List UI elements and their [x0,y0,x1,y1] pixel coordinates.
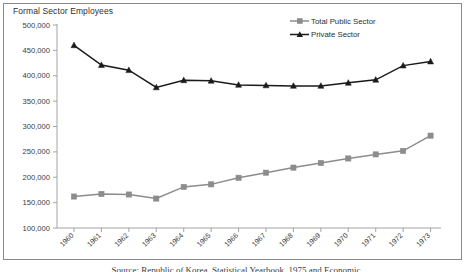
x-tick-label: 1960 [58,231,76,249]
x-tick-label: 1967 [250,231,268,249]
x-tick-label: 1973 [414,231,432,249]
legend-label: Total Public Sector [311,17,376,26]
x-tick-label: 1968 [277,231,295,249]
y-tick-label: 200,000 [23,173,50,182]
data-point-marker [401,148,406,153]
x-tick-label: 1963 [140,231,158,249]
line-chart: 100,000150,000200,000250,000300,000350,0… [0,0,472,272]
x-tick-label: 1966 [222,231,240,249]
y-axis-ticks: 100,000150,000200,000250,000300,000350,0… [23,21,57,233]
data-point-marker [346,156,351,161]
figure-caption: Source: Republic of Korea, Statistical Y… [0,265,472,272]
x-tick-label: 1971 [359,231,377,249]
y-tick-label: 250,000 [23,147,50,156]
data-point-marker [71,194,76,199]
x-tick-label: 1965 [195,231,213,249]
data-point-marker [154,196,159,201]
chart-legend: Total Public SectorPrivate Sector [290,17,376,40]
legend-label: Private Sector [311,30,360,39]
data-point-marker [318,160,323,165]
data-point-marker [263,170,268,175]
chart-axes [57,24,441,228]
data-point-marker [236,175,241,180]
data-point-marker [373,152,378,157]
x-tick-label: 1962 [113,231,131,249]
y-tick-label: 500,000 [23,21,50,30]
figure-container: Formal Sector Employees 100,000150,00020… [0,0,472,272]
x-tick-label: 1964 [167,231,185,249]
x-axis-ticks: 1960196119621963196419651966196719681969… [58,228,432,249]
y-tick-label: 400,000 [23,71,50,80]
data-series-group [71,42,434,201]
y-tick-label: 300,000 [23,122,50,131]
data-point-marker [209,182,214,187]
x-tick-label: 1961 [85,231,103,249]
data-point-marker [71,42,77,48]
y-tick-label: 150,000 [23,198,50,207]
data-point-marker [428,133,433,138]
data-point-marker [99,191,104,196]
legend-marker [297,18,303,24]
y-tick-label: 450,000 [23,46,50,55]
y-tick-label: 100,000 [23,224,50,233]
x-tick-label: 1969 [305,231,323,249]
data-point-marker [291,165,296,170]
data-point-marker [126,192,131,197]
x-tick-label: 1970 [332,231,350,249]
y-tick-label: 350,000 [23,97,50,106]
series-line [74,136,431,199]
x-tick-label: 1972 [387,231,405,249]
data-point-marker [181,184,186,189]
